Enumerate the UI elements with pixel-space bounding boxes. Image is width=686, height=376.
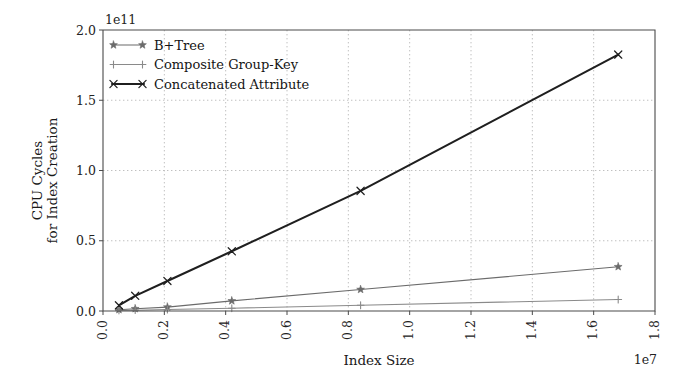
xtick-label-9: 1.8 [647, 320, 662, 340]
xtick-label-4: 0.8 [340, 320, 355, 340]
x-axis-title: Index Size [343, 352, 414, 368]
legend-label-b-tree: B+Tree [154, 38, 205, 53]
chart-figure: 0.00.20.40.60.81.01.21.41.61.80.00.51.01… [0, 0, 686, 376]
datapoint-b-tree-3 [228, 297, 236, 304]
xtick-label-8: 1.6 [585, 320, 600, 340]
datapoint-concatenated-attribute-5 [615, 51, 622, 58]
xtick-label-5: 1.0 [401, 320, 416, 340]
ytick-label-4: 2.0 [76, 23, 96, 38]
datapoint-composite-group-key-5 [615, 296, 622, 303]
y-axis-title-line2: for Index Creation [44, 117, 60, 243]
ytick-label-3: 1.5 [76, 93, 96, 108]
datapoint-b-tree-5 [614, 263, 622, 270]
ytick-label-2: 1.0 [76, 163, 96, 178]
xtick-label-3: 0.6 [279, 320, 294, 340]
x-axis-offset-label: 1e7 [634, 352, 657, 367]
series-line-concatenated-attribute [119, 55, 618, 306]
xtick-label-1: 0.2 [156, 320, 171, 340]
ytick-label-1: 0.5 [76, 233, 96, 248]
datapoint-concatenated-attribute-1 [132, 292, 139, 299]
datapoint-composite-group-key-4 [357, 302, 364, 309]
xtick-label-2: 0.4 [217, 320, 232, 340]
series-line-b-tree [119, 267, 618, 310]
y-axis-offset-label: 1e11 [105, 12, 136, 27]
datapoint-concatenated-attribute-4 [357, 187, 364, 194]
ytick-label-0: 0.0 [76, 304, 96, 319]
datapoint-concatenated-attribute-2 [164, 277, 171, 284]
datapoint-concatenated-attribute-3 [228, 248, 235, 255]
legend-marker-start-composite-group-key [110, 61, 117, 68]
xtick-label-0: 0.0 [95, 320, 110, 340]
xtick-label-7: 1.4 [524, 320, 539, 340]
legend-label-composite-group-key: Composite Group-Key [154, 57, 299, 72]
y-axis-title-line1: CPU Cycles [29, 141, 45, 221]
legend-marker-start-b-tree [110, 41, 118, 48]
datapoint-b-tree-4 [357, 285, 365, 292]
legend-marker-end-composite-group-key [139, 61, 146, 68]
line-chart-svg: 0.00.20.40.60.81.01.21.41.61.80.00.51.01… [0, 0, 686, 376]
xtick-label-6: 1.2 [463, 320, 478, 340]
legend-marker-end-b-tree [139, 41, 147, 48]
legend-label-concatenated-attribute: Concatenated Attribute [154, 77, 309, 92]
